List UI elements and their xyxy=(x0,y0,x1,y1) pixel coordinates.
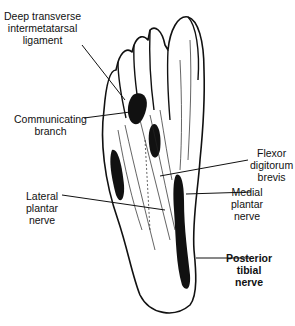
label-lateral-plantar-nerve: Lateral plantar nerve xyxy=(26,190,58,226)
label-flexor-digitorum-brevis: Flexor digitorum brevis xyxy=(250,147,293,183)
label-deep-transverse-intermetatarsal-ligament: Deep transverse intermetatarsal ligament xyxy=(4,10,81,46)
label-medial-plantar-nerve: Medial plantar nerve xyxy=(231,186,263,222)
label-communicating-branch: Communicating branch xyxy=(14,113,87,137)
label-posterior-tibial-nerve: Posterior tibial nerve xyxy=(226,252,272,288)
foot-nerve-diagram: Deep transverse intermetatarsal ligament… xyxy=(0,0,295,326)
